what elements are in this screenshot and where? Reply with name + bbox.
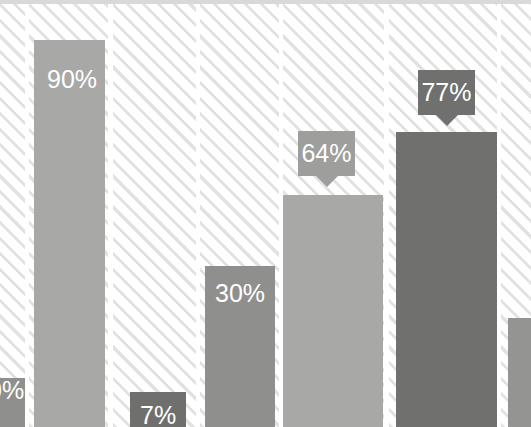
- bar-value-tooltip-5: 64%: [298, 131, 355, 176]
- bar-chart: 0% 90% 7% 30% 64% 77%: [0, 0, 531, 427]
- column-band-3: [113, 4, 196, 427]
- tooltip-arrow-icon-5: [316, 176, 338, 187]
- bar-value-label-1: 0%: [0, 378, 24, 403]
- tooltip-text-5: 64%: [301, 141, 351, 166]
- bar-value-tooltip-6: 77%: [418, 70, 475, 115]
- bar-2[interactable]: [34, 40, 105, 427]
- tooltip-arrow-icon-6: [436, 115, 458, 126]
- bar-value-label-3: 7%: [140, 403, 176, 427]
- column-band-1: [0, 4, 25, 427]
- bar-6[interactable]: [396, 132, 497, 427]
- bar-5[interactable]: [283, 195, 383, 427]
- tooltip-text-6: 77%: [421, 80, 471, 105]
- bar-7[interactable]: [508, 318, 531, 427]
- bar-value-label-4: 30%: [215, 281, 265, 306]
- bar-value-label-2: 90%: [47, 67, 97, 92]
